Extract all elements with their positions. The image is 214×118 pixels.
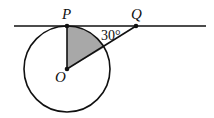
- geometry-diagram: P Q O 30°: [0, 0, 214, 118]
- angle-label: 30°: [101, 28, 121, 43]
- shaded-sector: [67, 26, 104, 69]
- diagram-canvas: P Q O 30°: [0, 0, 214, 118]
- label-p: P: [61, 6, 71, 22]
- label-q: Q: [131, 6, 142, 22]
- label-o: O: [55, 69, 66, 85]
- point-q: [134, 24, 139, 29]
- point-p: [65, 24, 70, 29]
